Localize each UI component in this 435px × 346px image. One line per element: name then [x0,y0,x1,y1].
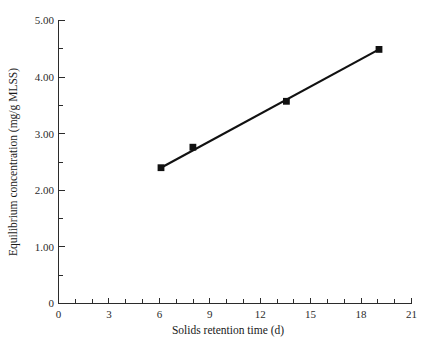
x-tick-label-6: 18 [356,308,368,320]
y-tick-label-2: 2.00 [35,184,55,196]
x-axis-tick-labels: 0 3 6 9 12 15 18 21 [56,308,417,320]
data-point-marker [376,46,383,53]
x-axis-title: Solids retention time (d) [172,324,284,337]
y-tick-label-5: 5.00 [35,14,55,26]
y-axis-minor-ticks [59,49,63,275]
x-tick-label-3: 9 [207,308,213,320]
y-tick-label-1: 1.00 [35,241,55,253]
y-axis-title: Equilibrium concentration (mg/g MLSS) [7,68,20,256]
x-tick-label-1: 3 [106,308,112,320]
x-tick-label-5: 15 [305,308,317,320]
data-point-marker [283,98,290,105]
axis-lines [59,20,412,304]
y-axis-tick-labels: 0 1.00 2.00 3.00 4.00 5.00 [35,14,55,309]
x-tick-label-7: 21 [406,308,417,320]
data-point-marker [158,164,165,171]
y-tick-label-3: 3.00 [35,128,55,140]
x-tick-label-0: 0 [56,308,62,320]
data-point-marker [190,144,197,151]
scatter-plot-svg: 0 1.00 2.00 3.00 4.00 5.00 0 3 6 9 12 15… [0,0,435,346]
chart-figure: 0 1.00 2.00 3.00 4.00 5.00 0 3 6 9 12 15… [0,0,435,346]
x-axis-major-ticks [59,298,412,304]
y-tick-label-0: 0 [49,297,55,309]
x-tick-label-2: 6 [157,308,163,320]
x-tick-label-4: 12 [255,308,266,320]
y-tick-label-4: 4.00 [35,71,55,83]
x-axis-minor-ticks [75,299,394,303]
